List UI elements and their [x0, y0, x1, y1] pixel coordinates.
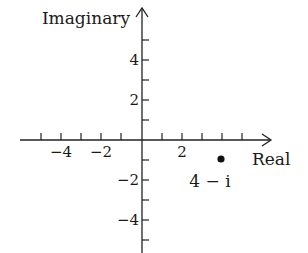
x-tick-label: −4 — [50, 143, 72, 161]
real-axis-label: Real — [252, 149, 290, 169]
imaginary-axis-label: Imaginary — [42, 8, 131, 28]
y-tick-label: 2 — [129, 91, 139, 109]
y-tick-label: 4 — [129, 51, 139, 69]
point-label: 4 − i — [189, 171, 231, 191]
x-tick-label: −2 — [90, 143, 112, 161]
complex-plane-diagram: Imaginary Real −4 −2 2 4 2 −2 −4 4 − i — [0, 0, 308, 253]
point-marker — [217, 155, 224, 162]
y-tick-label: −4 — [117, 211, 139, 229]
x-tick-label: 2 — [177, 143, 187, 161]
y-tick-label: −2 — [117, 171, 139, 189]
